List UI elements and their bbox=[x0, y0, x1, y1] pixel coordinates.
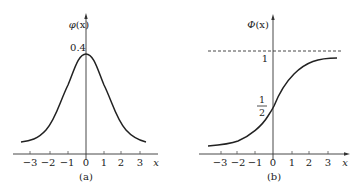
panel-a: −3 −2 −1 0 1 2 3 x φ(x) 0.4 (a) bbox=[13, 13, 159, 182]
x-axis-label-a: x bbox=[153, 157, 159, 168]
peak-label: 0.4 bbox=[70, 42, 86, 53]
tick-label: 1 bbox=[289, 157, 295, 168]
x-tick-labels-a: −3 −2 −1 0 1 2 3 bbox=[23, 157, 144, 168]
figure-canvas: −3 −2 −1 0 1 2 3 x φ(x) 0.4 (a) bbox=[0, 0, 354, 190]
one-label: 1 bbox=[262, 53, 268, 64]
tick-label: −2 bbox=[231, 157, 246, 168]
tick-label: 2 bbox=[118, 157, 124, 168]
half-numerator: 1 bbox=[259, 94, 265, 105]
tick-label: 2 bbox=[306, 157, 312, 168]
x-axis-arrow-icon bbox=[344, 152, 350, 155]
y-axis-label-b: Φ(x) bbox=[247, 19, 269, 30]
caption-b: (b) bbox=[267, 171, 281, 182]
tick-label: −2 bbox=[41, 157, 56, 168]
pdf-curve bbox=[21, 54, 146, 142]
y-axis-label-a: φ(x) bbox=[69, 19, 90, 30]
half-denominator: 2 bbox=[259, 107, 265, 118]
y-axis-arrow-icon bbox=[271, 14, 274, 20]
tick-label: −3 bbox=[213, 157, 228, 168]
tick-label: −1 bbox=[248, 157, 263, 168]
tick-label: 0 bbox=[83, 157, 89, 168]
tick-label: −3 bbox=[23, 157, 38, 168]
panel-b: −3 −2 −1 0 1 2 3 x Φ(x) 1 1 2 (b) bbox=[199, 14, 350, 182]
x-tick-labels-b: −3 −2 −1 0 1 2 3 bbox=[213, 157, 332, 168]
caption-a: (a) bbox=[79, 171, 93, 182]
tick-label: 1 bbox=[101, 157, 107, 168]
tick-label: −1 bbox=[60, 157, 75, 168]
tick-label: 3 bbox=[325, 157, 331, 168]
tick-label: 0 bbox=[270, 157, 276, 168]
tick-label: 3 bbox=[137, 157, 143, 168]
x-axis-label-b: x bbox=[342, 157, 348, 168]
half-label: 1 2 bbox=[257, 94, 267, 118]
cdf-curve bbox=[208, 58, 337, 146]
